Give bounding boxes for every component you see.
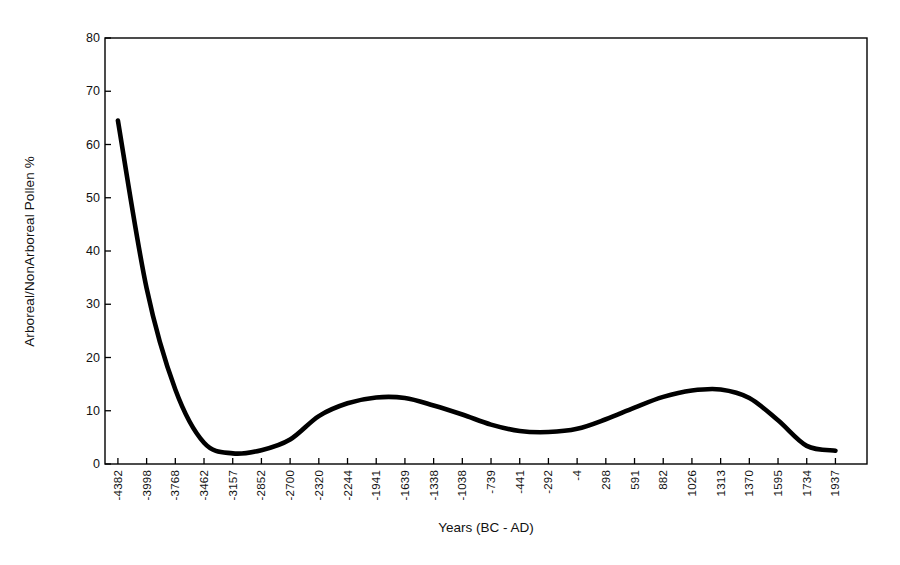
- plot-area: [0, 0, 900, 565]
- chart-figure: Arboreal/NonArboreal Pollen % 0102030405…: [0, 0, 900, 565]
- x-axis-title: Years (BC - AD): [105, 520, 867, 535]
